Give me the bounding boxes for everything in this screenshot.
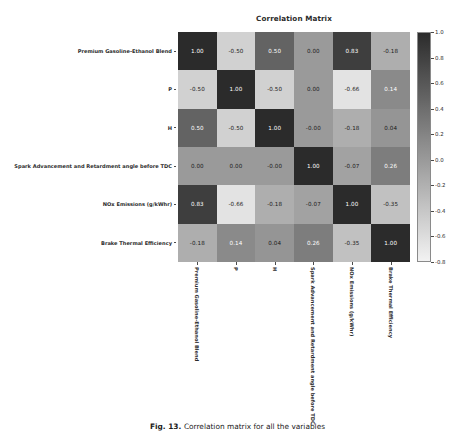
- heatmap-cell: 0.14: [371, 70, 410, 108]
- x-axis-tick-mark: [352, 262, 353, 265]
- heatmap-cell: -0.35: [371, 185, 410, 223]
- colorbar-tick-label: 0.2: [435, 131, 444, 137]
- heatmap-cell: -0.35: [333, 224, 372, 262]
- colorbar-tick-label: 1.0: [435, 29, 444, 35]
- y-axis-tick-text: Brake Thermal Efficiency: [101, 240, 172, 246]
- y-axis-tick-mark: [174, 166, 177, 167]
- colorbar-tick-mark: [431, 185, 434, 186]
- heatmap-cell-value: 0.04: [384, 125, 397, 131]
- heatmap-cell: 0.00: [294, 32, 333, 70]
- heatmap-cell-value: -0.07: [306, 201, 321, 207]
- x-axis-tick-label: Brake Thermal Efficiency: [371, 262, 410, 428]
- y-axis-tick-label: Premium Gasoline-Ethanol Blend: [0, 32, 176, 70]
- heatmap-cell-value: 0.00: [307, 48, 320, 54]
- colorbar-ticks: 1.00.80.60.40.20.0-0.2-0.4-0.6-0.8: [431, 32, 471, 262]
- colorbar: 1.00.80.60.40.20.0-0.2-0.4-0.6-0.8: [417, 32, 431, 262]
- page-title: Correlation Matrix: [178, 14, 410, 23]
- x-axis-tick-text: H: [272, 267, 278, 271]
- heatmap-cell-value: 0.00: [191, 163, 204, 169]
- colorbar-tick-label: -0.8: [435, 259, 446, 265]
- colorbar-tick-mark: [431, 211, 434, 212]
- heatmap-cell-value: -0.50: [229, 48, 244, 54]
- x-axis-tick-label: H: [255, 262, 294, 428]
- heatmap-cell-value: -0.35: [345, 240, 360, 246]
- heatmap-cell: 1.00: [255, 109, 294, 147]
- heatmap-cell-value: 1.00: [191, 48, 204, 54]
- heatmap-cell: -0.18: [255, 185, 294, 223]
- heatmap-cell: 0.26: [371, 147, 410, 185]
- heatmap-cell-value: -0.35: [383, 201, 398, 207]
- heatmap-cell: -0.66: [333, 70, 372, 108]
- heatmap-cell-value: 0.26: [384, 163, 397, 169]
- heatmap-cell: 1.00: [178, 32, 217, 70]
- heatmap-cell-value: 0.14: [384, 86, 397, 92]
- colorbar-tick-label: -0.2: [435, 182, 446, 188]
- heatmap-cell: 0.83: [333, 32, 372, 70]
- heatmap-cell: 0.14: [217, 224, 256, 262]
- caption-text: Correlation matrix for all the variables: [184, 422, 325, 431]
- heatmap-cell-value: 0.83: [191, 201, 204, 207]
- heatmap-cell-value: 0.00: [307, 86, 320, 92]
- heatmap-cell-value: -0.50: [190, 86, 205, 92]
- heatmap-cell: 1.00: [217, 70, 256, 108]
- heatmap-cell-value: 0.14: [230, 240, 243, 246]
- x-axis-tick-mark: [313, 262, 314, 265]
- y-axis-tick-mark: [174, 242, 177, 243]
- x-axis-tick-text: Brake Thermal Efficiency: [388, 267, 394, 338]
- heatmap-cell: -0.50: [217, 32, 256, 70]
- heatmap-cell: 0.83: [178, 185, 217, 223]
- colorbar-tick-mark: [431, 236, 434, 237]
- colorbar-tick-label: 0.8: [435, 55, 444, 61]
- x-axis-tick-mark: [236, 262, 237, 265]
- y-axis-tick-mark: [174, 89, 177, 90]
- y-axis-tick-label: Spark Advancement and Retardment angle b…: [0, 147, 176, 185]
- y-axis-tick-label: H: [0, 109, 176, 147]
- heatmap-cell: 1.00: [371, 224, 410, 262]
- heatmap-cell-value: 0.50: [191, 125, 204, 131]
- heatmap-cell-value: 0.00: [230, 163, 243, 169]
- colorbar-tick-label: -0.6: [435, 233, 446, 239]
- y-axis-tick-text: Spark Advancement and Retardment angle b…: [14, 163, 172, 169]
- x-axis-labels: Premium Gasoline-Ethanol BlendPHSpark Ad…: [178, 262, 410, 428]
- x-axis-tick-text: Spark Advancement and Retardment angle b…: [310, 267, 316, 425]
- y-axis-tick-text: P: [168, 86, 172, 92]
- heatmap-cell-value: -0.50: [229, 125, 244, 131]
- heatmap-cell: -0.50: [217, 109, 256, 147]
- figure-caption: Fig. 13. Correlation matrix for all the …: [0, 422, 475, 431]
- colorbar-tick-label: 0.6: [435, 80, 444, 86]
- heatmap-cell-value: -0.00: [267, 163, 282, 169]
- heatmap-cell-value: 0.04: [268, 240, 281, 246]
- heatmap-cell: -0.18: [333, 109, 372, 147]
- colorbar-tick-mark: [431, 109, 434, 110]
- heatmap-cell: 0.00: [217, 147, 256, 185]
- heatmap-cell: -0.50: [178, 70, 217, 108]
- heatmap-cell-value: 1.00: [307, 163, 320, 169]
- heatmap-cell: -0.00: [255, 147, 294, 185]
- colorbar-tick-mark: [431, 134, 434, 135]
- heatmap-grid: 1.00-0.500.500.000.83-0.18-0.501.00-0.50…: [178, 32, 410, 262]
- heatmap-cell-value: -0.66: [229, 201, 244, 207]
- heatmap-cell-value: -0.50: [267, 86, 282, 92]
- colorbar-tick-mark: [431, 262, 434, 263]
- x-axis-tick-label: Spark Advancement and Retardment angle b…: [294, 262, 333, 428]
- heatmap-cell-value: 1.00: [346, 201, 359, 207]
- heatmap-cell-value: -0.18: [190, 240, 205, 246]
- x-axis-tick-text: NOx Emissions (g/kWhr): [349, 267, 355, 336]
- colorbar-tick-label: 0.4: [435, 106, 444, 112]
- colorbar-tick-label: 0.0: [435, 157, 444, 163]
- x-axis-tick-label: NOx Emissions (g/kWhr): [333, 262, 372, 428]
- heatmap-cell-value: -0.07: [345, 163, 360, 169]
- heatmap-cell-value: -0.18: [267, 201, 282, 207]
- correlation-matrix-figure: Correlation Matrix Premium Gasoline-Etha…: [0, 0, 475, 431]
- heatmap-cell: -0.00: [294, 109, 333, 147]
- y-axis-tick-mark: [174, 204, 177, 205]
- heatmap-cell: 0.00: [294, 70, 333, 108]
- heatmap-cell-value: -0.00: [306, 125, 321, 131]
- colorbar-tick-mark: [431, 160, 434, 161]
- heatmap-cell-value: 0.26: [307, 240, 320, 246]
- heatmap-cell-value: 1.00: [268, 125, 281, 131]
- x-axis-tick-label: P: [217, 262, 256, 428]
- colorbar-tick-mark: [431, 83, 434, 84]
- y-axis-tick-label: Brake Thermal Efficiency: [0, 224, 176, 262]
- y-axis-tick-text: NOx Emissions (g/kWhr): [103, 201, 172, 207]
